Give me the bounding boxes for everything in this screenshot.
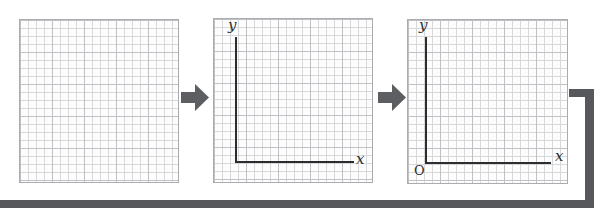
x-axis-label: x (356, 152, 364, 167)
step-arrow-right-icon (378, 83, 406, 112)
grid-panel-blank (19, 19, 179, 183)
grid-panel-axes-origin: y x O (407, 19, 568, 184)
x-axis-line (425, 162, 551, 164)
y-axis-label: y (419, 18, 427, 33)
flow-connector-bottom-bar (0, 200, 594, 208)
flow-connector-vertical (585, 89, 594, 200)
step-arrow-right-icon (181, 83, 209, 112)
figure-canvas: y x y x O (0, 0, 603, 209)
x-axis-label: x (555, 149, 563, 164)
origin-label: O (414, 164, 425, 177)
x-axis-line (235, 161, 354, 163)
grid-panel-axes: y x (213, 18, 373, 183)
y-axis-line (425, 37, 427, 164)
y-axis-line (235, 37, 237, 163)
y-axis-label: y (228, 18, 236, 33)
